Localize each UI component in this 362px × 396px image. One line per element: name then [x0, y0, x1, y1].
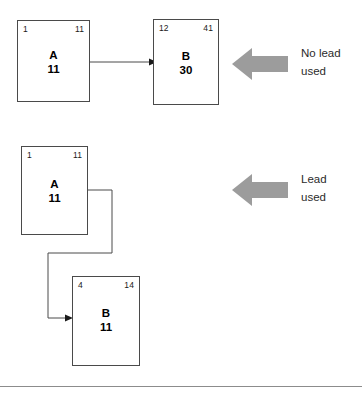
node-a-top: 1 11 A 11	[17, 20, 90, 102]
bottom-divider	[0, 386, 362, 387]
left-arrow-icon-no-lead	[232, 48, 288, 80]
node-a-top-corner-left: 1	[23, 24, 28, 34]
node-b-bottom-corner-left: 4	[78, 280, 83, 290]
node-a-top-center: A 11	[18, 49, 89, 76]
node-a-bottom-corner-left: 1	[27, 150, 32, 160]
node-a-top-corner-right: 11	[75, 24, 84, 34]
connector-straight-arrow	[90, 59, 157, 66]
node-b-bottom-center: B 11	[73, 307, 139, 334]
node-b-bottom-corner-right: 14	[124, 280, 134, 290]
node-b-bottom-value: 11	[73, 321, 139, 335]
node-a-top-label: A	[18, 49, 89, 63]
node-b-bottom-label: B	[73, 307, 139, 321]
node-a-bottom-center: A 11	[22, 178, 87, 205]
node-a-bottom: 1 11 A 11	[21, 146, 88, 235]
node-b-top: 12 41 B 30	[153, 19, 219, 105]
left-arrow-icon-lead	[232, 174, 288, 206]
node-b-top-value: 30	[154, 64, 218, 78]
node-b-top-corner-right: 41	[203, 23, 213, 33]
node-a-bottom-label: A	[22, 178, 87, 192]
node-b-top-center: B 30	[154, 50, 218, 77]
node-a-bottom-value: 11	[22, 192, 87, 206]
node-a-bottom-corner-right: 11	[73, 150, 82, 160]
callout-lead-text: Lead used	[301, 170, 327, 206]
node-b-top-corner-left: 12	[159, 23, 169, 33]
callout-no-lead-text: No lead used	[301, 44, 341, 80]
callout-no-lead: No lead used	[292, 44, 341, 80]
node-b-bottom: 4 14 B 11	[72, 276, 140, 366]
node-a-top-value: 11	[18, 63, 89, 77]
node-b-top-label: B	[154, 50, 218, 64]
callout-lead: Lead used	[292, 170, 327, 206]
